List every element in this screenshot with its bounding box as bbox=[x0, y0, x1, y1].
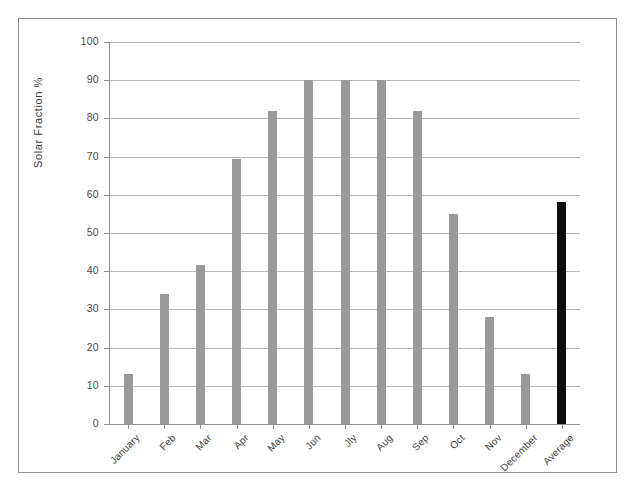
x-tick-mark bbox=[345, 425, 346, 429]
bar bbox=[341, 80, 350, 424]
y-tick-label: 50 bbox=[87, 226, 99, 238]
bar bbox=[160, 294, 169, 424]
x-tick-mark bbox=[164, 425, 165, 429]
bar bbox=[268, 111, 277, 424]
bar bbox=[196, 265, 205, 424]
x-tick-mark bbox=[526, 425, 527, 429]
gridline bbox=[110, 42, 580, 43]
x-tick-mark bbox=[417, 425, 418, 429]
bar bbox=[557, 202, 566, 424]
chart-figure: Solar Fraction % 0102030405060708090100 … bbox=[0, 0, 633, 488]
x-tick-mark bbox=[273, 425, 274, 429]
bar bbox=[304, 80, 313, 424]
x-tick-mark bbox=[381, 425, 382, 429]
x-tick-mark bbox=[200, 425, 201, 429]
y-tick-label: 0 bbox=[93, 417, 99, 429]
plot-area bbox=[110, 42, 580, 424]
x-tick-mark bbox=[562, 425, 563, 429]
y-axis-title: Solar Fraction % bbox=[32, 28, 44, 168]
bar bbox=[521, 374, 530, 424]
bar bbox=[485, 317, 494, 424]
y-tick-label: 80 bbox=[87, 111, 99, 123]
y-tick-label: 100 bbox=[81, 35, 99, 47]
x-tick-mark bbox=[128, 425, 129, 429]
y-tick-label: 30 bbox=[87, 302, 99, 314]
y-tick-label: 70 bbox=[87, 150, 99, 162]
bar bbox=[124, 374, 133, 424]
y-tick-label: 60 bbox=[87, 188, 99, 200]
y-tick-label: 90 bbox=[87, 73, 99, 85]
x-tick-mark bbox=[237, 425, 238, 429]
bar bbox=[377, 80, 386, 424]
bar bbox=[232, 159, 241, 424]
y-tick-label: 20 bbox=[87, 341, 99, 353]
bar bbox=[413, 111, 422, 424]
x-tick-mark bbox=[453, 425, 454, 429]
x-tick-mark bbox=[490, 425, 491, 429]
y-tick-label: 10 bbox=[87, 379, 99, 391]
x-tick-mark bbox=[309, 425, 310, 429]
bar bbox=[449, 214, 458, 424]
y-tick-label: 40 bbox=[87, 264, 99, 276]
